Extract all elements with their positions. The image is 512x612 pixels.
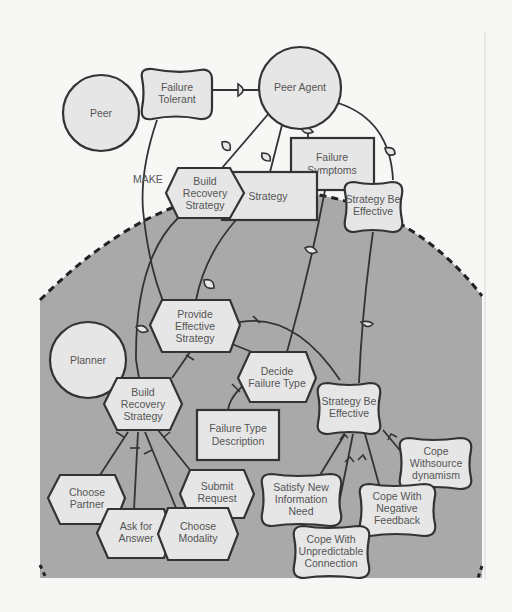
actor-peer-agent[interactable]: Peer Agent xyxy=(259,47,341,129)
node-label: Partner xyxy=(70,498,105,510)
node-label: Recovery xyxy=(183,187,228,199)
node-label: dynamism xyxy=(412,469,460,481)
node-label: Choose xyxy=(69,486,105,498)
node-label: Unpredictable xyxy=(299,545,364,557)
softgoal-cope-with-resource-dynamism[interactable]: Cope Withsource dynamism xyxy=(400,438,472,489)
actor-label: Peer xyxy=(90,107,113,119)
actor-peer[interactable]: Peer xyxy=(63,75,139,151)
node-label: Decide xyxy=(261,365,294,377)
node-label: Build xyxy=(193,175,217,187)
diagram-canvas: MAKE Peer Peer Agent Planner Failure Sym… xyxy=(0,0,512,612)
node-label: Ask for xyxy=(120,520,153,532)
resource-failure-type-description[interactable]: Failure Type Description xyxy=(197,410,279,460)
task-build-recovery-strategy-top[interactable]: Build Recovery Strategy xyxy=(166,168,244,218)
task-provide-effective-strategy[interactable]: Provide Effective Strategy xyxy=(150,300,240,352)
node-label: Request xyxy=(197,492,236,504)
node-label: Satisfy New xyxy=(273,481,329,493)
node-label: Connection xyxy=(304,557,357,569)
node-label: Tolerant xyxy=(158,93,195,105)
node-label: Provide xyxy=(177,308,213,320)
node-label: Negative xyxy=(376,502,418,514)
task-build-recovery-strategy-planner[interactable]: Build Recovery Strategy xyxy=(104,378,182,430)
node-label: Strategy xyxy=(185,199,225,211)
node-label: Cope With xyxy=(306,533,355,545)
softgoal-failure-tolerant[interactable]: Failure Tolerant xyxy=(142,69,212,119)
node-label: Information xyxy=(275,493,328,505)
softgoal-strategy-be-effective-mid[interactable]: Strategy Be Effective xyxy=(318,383,381,434)
dependency-marker-icon xyxy=(238,84,243,96)
node-label: Strategy Be xyxy=(346,193,401,205)
node-label: Feedback xyxy=(374,514,421,526)
node-label: Failure Type xyxy=(248,377,306,389)
node-label: Failure xyxy=(161,81,193,93)
make-link-label: MAKE xyxy=(133,173,163,185)
softgoal-cope-with-unpredictable-connection[interactable]: Cope With Unpredictable Connection xyxy=(294,526,370,578)
node-label: Withsource xyxy=(410,457,463,469)
node-label: Effective xyxy=(329,407,369,419)
softgoal-cope-with-negative-feedback[interactable]: Cope With Negative Feedback xyxy=(360,484,436,536)
actor-label: Peer Agent xyxy=(274,81,326,93)
node-label: Effective xyxy=(175,320,215,332)
node-label: Choose xyxy=(180,520,216,532)
node-label: Need xyxy=(288,505,313,517)
dependency-marker-icon xyxy=(204,280,214,289)
node-label: Strategy xyxy=(123,410,163,422)
node-label: Strategy xyxy=(248,190,288,202)
node-label: Effective xyxy=(353,205,393,217)
softgoal-strategy-be-effective-top[interactable]: Strategy Be Effective xyxy=(345,182,403,232)
node-label: Answer xyxy=(118,532,154,544)
node-label: Cope With xyxy=(372,490,421,502)
softgoal-satisfy-new-information-need[interactable]: Satisfy New Information Need xyxy=(262,474,342,526)
node-label: Cope xyxy=(423,445,448,457)
actor-label: Planner xyxy=(70,354,107,366)
node-label: Failure Type xyxy=(209,422,267,434)
node-label: Strategy xyxy=(175,332,215,344)
dependency-marker-icon xyxy=(222,142,230,151)
node-label: Failure xyxy=(316,151,348,163)
dependency-marker-icon xyxy=(385,148,395,156)
node-label: Build xyxy=(131,386,155,398)
node-label: Description xyxy=(212,435,265,447)
task-decide-failure-type[interactable]: Decide Failure Type xyxy=(238,352,316,402)
node-label: Strategy Be xyxy=(322,395,377,407)
dependency-marker-icon xyxy=(262,153,271,161)
node-label: Submit xyxy=(201,480,234,492)
node-label: Recovery xyxy=(121,398,166,410)
node-label: Modality xyxy=(178,532,218,544)
task-choose-modality[interactable]: Choose Modality xyxy=(158,508,238,560)
